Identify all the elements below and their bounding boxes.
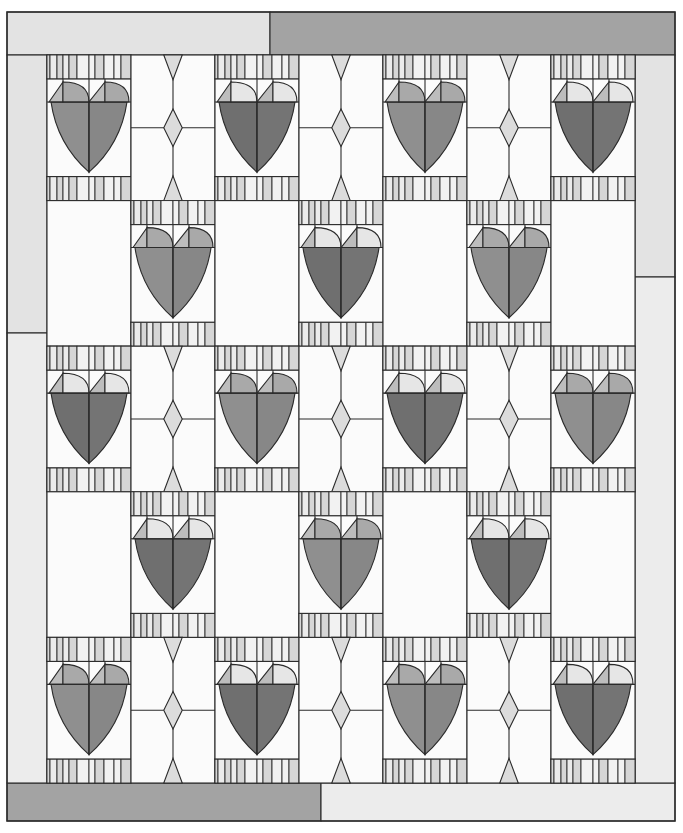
strip-bar [95,759,104,783]
strip-bar [179,492,188,516]
strip-bar [50,637,57,661]
strip-bar [554,177,561,201]
strip-bar [405,637,413,661]
strip-bar [393,759,399,783]
strip-bar [231,468,237,492]
strip-bar [399,55,405,79]
strip-bar [134,492,141,516]
strip-bar [89,759,95,783]
strip-bar [467,613,470,637]
quilt-block-blank [215,492,299,638]
quilt-block-blank [215,201,299,347]
strip-bar [161,201,173,225]
strip-bar [95,637,104,661]
strip-bar [425,637,431,661]
strip-bar [489,201,497,225]
strip-bar [608,759,618,783]
strip-bar [114,468,121,492]
strip-bar [509,492,515,516]
strip-bar [431,346,440,370]
strip-bar [593,177,599,201]
strip-bar [141,201,147,225]
strip-bar [282,55,289,79]
strip-bar [231,55,237,79]
strip-bar [121,637,131,661]
quilt-block-sash [467,346,551,492]
strip-bar [341,201,347,225]
strip-bar [554,637,561,661]
strip-bar [315,322,321,346]
strip-bar [386,346,393,370]
quilt-block-heart-M [47,637,131,783]
strip-bar [57,759,63,783]
strip-bar [477,322,483,346]
strip-bar [282,346,289,370]
strip-bar [625,637,635,661]
quilt-block-sash [131,55,215,201]
strip-bar [534,613,541,637]
strip-bar [599,346,608,370]
strip-bar [95,346,104,370]
strip-bar [309,613,315,637]
strip-bar [47,637,50,661]
strip-bar [581,759,593,783]
strip-bar [289,55,299,79]
strip-bar [237,55,245,79]
strip-bar [457,759,467,783]
strip-bar [386,468,393,492]
strip-bar [356,322,366,346]
strip-bar [625,177,635,201]
strip-bar [581,55,593,79]
strip-bar [581,637,593,661]
strip-bar [188,613,198,637]
strip-bar [218,759,225,783]
strip-bar [567,468,573,492]
strip-bar [386,55,393,79]
strip-bar [173,201,179,225]
strip-bar [567,177,573,201]
strip-bar [618,637,625,661]
strip-bar [457,177,467,201]
strip-bar [405,346,413,370]
strip-bar [272,346,282,370]
strip-bar [263,55,272,79]
strip-bar [309,492,315,516]
strip-bar [289,177,299,201]
strip-bar [386,177,393,201]
strip-bar [425,468,431,492]
strip-bar [425,346,431,370]
strip-bar [272,637,282,661]
strip-bar [413,637,425,661]
strip-bar [302,201,309,225]
strip-bar [329,613,341,637]
strip-bar [47,346,50,370]
border-top-segment [270,12,675,55]
strip-bar [524,322,534,346]
strip-bar [315,613,321,637]
border-left-segment [7,55,47,333]
strip-bar [457,637,467,661]
strip-bar [225,759,231,783]
strip-bar [289,468,299,492]
strip-bar [347,613,356,637]
quilt-block-heart-D [551,55,635,201]
strip-bar [95,177,104,201]
strip-bar [147,201,153,225]
quilt-block-heart-D [47,346,131,492]
quilt-block-heart-D [215,55,299,201]
strip-bar [497,613,509,637]
strip-bar [89,468,95,492]
strip-bar [399,637,405,661]
strip-bar [218,177,225,201]
strip-bar [618,177,625,201]
border-left-segment [7,333,47,783]
strip-bar [413,759,425,783]
strip-bar [95,55,104,79]
quilt-block-sash [299,346,383,492]
strip-bar [393,177,399,201]
strip-bar [299,613,302,637]
quilt-block-heart-M [467,201,551,347]
strip-bar [321,201,329,225]
strip-bar [104,637,114,661]
strip-bar [89,346,95,370]
